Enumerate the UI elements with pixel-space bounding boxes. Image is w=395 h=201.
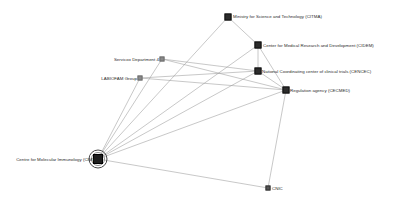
graph-node-servicios[interactable] xyxy=(160,57,165,62)
graph-node-label-servicios: Servicox Department 4 xyxy=(114,57,159,62)
graph-node-cnic[interactable] xyxy=(266,186,271,191)
graph-node-label-mincyt: Ministry for Science and Technology (CIT… xyxy=(233,14,322,19)
graph-edge xyxy=(228,17,258,45)
graph-edge xyxy=(258,45,286,90)
graph-node-cencec[interactable] xyxy=(255,68,262,75)
edge-layer xyxy=(0,0,395,201)
graph-node-label-cidem: Center for Medical Research and Developm… xyxy=(263,43,374,48)
graph-node-label-cecmed: Regulation agency (CECMED) xyxy=(290,88,350,93)
graph-node-cim[interactable] xyxy=(93,154,103,164)
graph-edge xyxy=(162,59,286,90)
graph-node-label-cim: Centre for Molecular Immunology (CIM) xyxy=(16,157,94,162)
graph-node-cecmed[interactable] xyxy=(283,87,290,94)
graph-edge xyxy=(162,59,258,71)
graph-node-label-cencec: National Coordinating center of clinical… xyxy=(262,69,371,74)
graph-edge xyxy=(268,90,286,188)
graph-edge xyxy=(98,17,228,159)
graph-edge xyxy=(98,90,286,159)
graph-edge xyxy=(140,78,286,90)
graph-node-label-cnic: CNIC xyxy=(272,186,283,191)
graph-node-labiofam[interactable] xyxy=(138,76,143,81)
graph-edge xyxy=(98,59,162,159)
graph-node-label-labiofam: LABIOFAM Group xyxy=(101,76,137,81)
graph-node-mincyt[interactable] xyxy=(225,14,232,21)
graph-edge xyxy=(98,45,258,159)
graph-node-cidem[interactable] xyxy=(255,42,262,49)
graph-edge xyxy=(140,71,258,78)
graph-edge xyxy=(98,78,140,159)
graph-edge xyxy=(98,159,268,188)
network-diagram-canvas: Ministry for Science and Technology (CIT… xyxy=(0,0,395,201)
graph-edge xyxy=(98,71,258,159)
